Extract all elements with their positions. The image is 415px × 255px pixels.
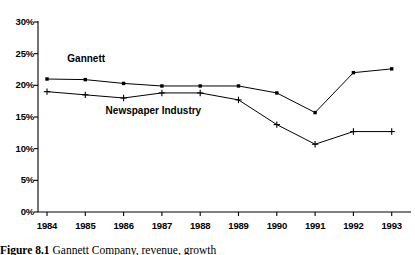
caption-text: Gannett Company, revenue, growth [53,244,217,255]
y-tick-label: 5% [0,174,34,185]
x-tick-label: 1991 [295,220,335,231]
data-point [237,84,240,87]
x-tick-label: 1992 [333,220,373,231]
series-label: Gannett [67,53,105,64]
figure-container: 0%5%10%15%20%25%30% 19841985198619871988… [0,0,415,255]
x-tick-label: 1985 [65,220,105,231]
x-tick-label: 1993 [372,220,412,231]
x-tick-label: 1986 [104,220,144,231]
data-point [275,91,278,94]
x-tick-label: 1988 [180,220,220,231]
x-tick-label: 1989 [219,220,259,231]
data-point [313,111,316,114]
data-point [390,67,393,70]
data-point [122,82,125,85]
figure-caption: Figure 8.1 Gannett Company, revenue, gro… [0,244,415,255]
y-tick-label: 30% [0,16,34,27]
data-point [199,84,202,87]
data-point [160,84,163,87]
y-tick-label: 25% [0,48,34,59]
data-point [352,71,355,74]
y-tick-label: 15% [0,111,34,122]
series-label: Newspaper Industry [106,105,202,116]
series-line-0 [47,69,392,113]
x-tick-label: 1984 [27,220,67,231]
chart-ticks [34,22,392,216]
x-tick-label: 1990 [257,220,297,231]
chart-series-layer [44,67,395,147]
x-tick-label: 1987 [142,220,182,231]
chart-axes [38,21,411,212]
y-tick-label: 20% [0,79,34,90]
y-tick-label: 10% [0,143,34,154]
caption-figure-number: Figure 8.1 [0,244,50,255]
data-point [84,78,87,81]
line-chart [0,0,415,255]
y-tick-label: 0% [0,206,34,217]
data-point [45,77,48,80]
series-line-1 [47,92,392,145]
